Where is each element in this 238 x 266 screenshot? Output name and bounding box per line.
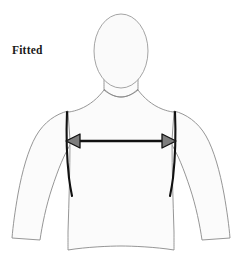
head-oval xyxy=(94,14,148,88)
torso xyxy=(68,90,174,250)
body-silhouette xyxy=(12,14,230,250)
body-figure-illustration xyxy=(0,0,238,266)
fitted-measurement-diagram: Fitted xyxy=(0,0,238,266)
